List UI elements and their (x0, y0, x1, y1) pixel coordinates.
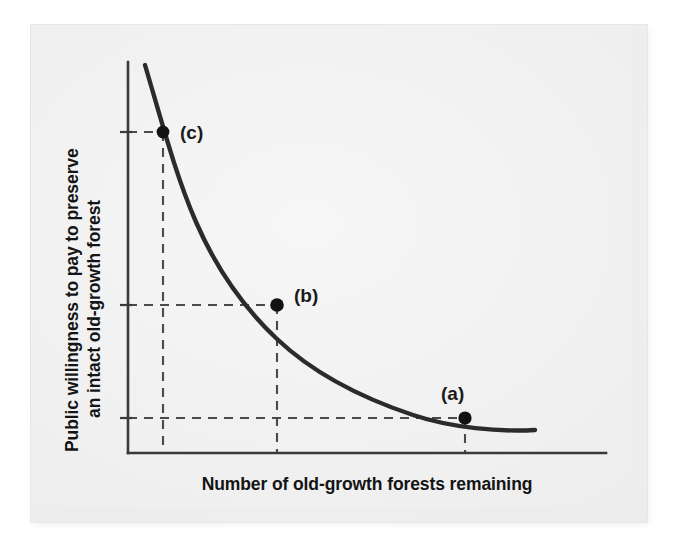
data-point-b[interactable] (270, 298, 284, 312)
y-axis-title-line-2: an intact old-growth forest (84, 200, 105, 418)
figure-screenshot: (c) (b) (a) Number of old-growth forests… (0, 0, 680, 552)
x-axis-title: Number of old-growth forests remaining (128, 474, 606, 495)
data-point-c[interactable] (157, 126, 170, 139)
demand-curve (145, 65, 535, 430)
guides-point-b (128, 305, 277, 453)
data-point-label-c: (c) (180, 122, 203, 143)
data-point-label-b: (b) (294, 285, 318, 306)
guides-point-a (128, 418, 465, 453)
data-point-a[interactable] (458, 411, 471, 424)
guides-point-c (128, 132, 163, 453)
data-point-label-a: (a) (441, 383, 464, 404)
y-axis-title-line-1: Public willingness to pay to preserve (62, 148, 83, 452)
y-axis-ticks (120, 132, 132, 418)
